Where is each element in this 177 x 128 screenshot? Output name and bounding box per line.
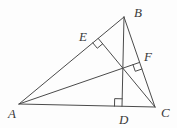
label-F: F	[143, 49, 153, 64]
label-D: D	[118, 112, 129, 127]
label-E: E	[78, 29, 87, 44]
altitude-AF	[19, 62, 140, 104]
label-C: C	[161, 105, 170, 120]
right-angle-at-D	[115, 99, 123, 107]
geometry-figure: ABCDEF	[0, 0, 177, 128]
side-AB	[19, 17, 124, 104]
side-CA	[19, 104, 155, 107]
altitude-BD	[122, 17, 124, 106]
label-A: A	[7, 106, 16, 121]
diagram-container: ABCDEF	[0, 0, 177, 128]
label-B: B	[134, 5, 142, 20]
right-angle-at-E	[93, 43, 103, 48]
